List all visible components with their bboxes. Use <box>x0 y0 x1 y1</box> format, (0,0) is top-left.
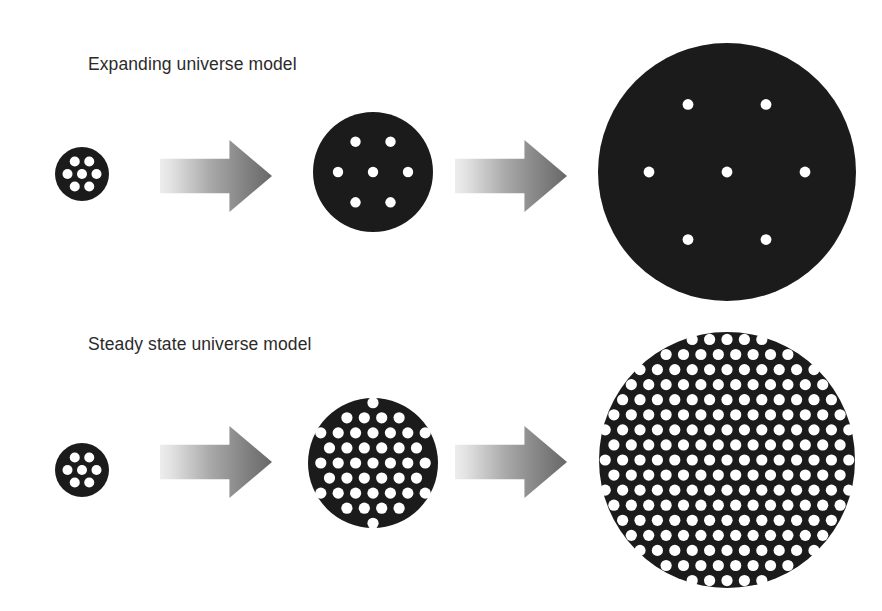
galaxy-dot <box>63 465 73 475</box>
galaxy-dot <box>420 427 431 438</box>
galaxy-dot <box>600 424 611 435</box>
galaxy-dot <box>721 334 732 345</box>
galaxy-dot <box>92 169 102 179</box>
galaxy-dot <box>835 469 846 480</box>
galaxy-dot <box>333 427 344 438</box>
galaxy-dot <box>324 472 335 483</box>
galaxy-dot <box>70 452 80 462</box>
galaxy-dot <box>678 409 689 420</box>
galaxy-dot <box>704 394 715 405</box>
galaxy-dot <box>385 488 396 499</box>
galaxy-dot <box>402 427 413 438</box>
galaxy-dot <box>721 394 732 405</box>
galaxy-dot <box>367 457 378 468</box>
galaxy-dot <box>411 442 422 453</box>
galaxy-dot <box>350 197 360 207</box>
galaxy-dot <box>817 469 828 480</box>
galaxy-dot <box>835 439 846 450</box>
galaxy-dot <box>617 424 628 435</box>
galaxy-dot <box>652 485 663 496</box>
galaxy-dot <box>92 465 102 475</box>
galaxy-dot <box>687 575 698 586</box>
universe-sphere-expanding-1 <box>55 147 109 201</box>
galaxy-dot <box>669 454 680 465</box>
galaxy-dot <box>678 379 689 390</box>
galaxy-dot <box>782 530 793 541</box>
galaxy-dot <box>722 167 733 178</box>
galaxy-dot <box>808 364 819 375</box>
galaxy-dot <box>739 575 750 586</box>
galaxy-dot <box>756 485 767 496</box>
galaxy-dot <box>626 500 637 511</box>
galaxy-dot <box>617 394 628 405</box>
galaxy-dot <box>721 364 732 375</box>
galaxy-dot <box>350 136 360 146</box>
galaxy-dot <box>704 454 715 465</box>
galaxy-dot <box>411 472 422 483</box>
galaxy-dot <box>791 515 802 526</box>
galaxy-dot <box>333 457 344 468</box>
label-steady-state-universe-model: Steady state universe model <box>88 334 312 355</box>
galaxy-dot <box>761 234 772 245</box>
galaxy-dot <box>70 182 80 192</box>
galaxy-dot <box>341 442 352 453</box>
galaxy-dot <box>84 182 94 192</box>
galaxy-dot <box>333 488 344 499</box>
galaxy-dot <box>808 545 819 556</box>
galaxy-dot <box>704 334 715 345</box>
galaxy-dot <box>634 545 645 556</box>
galaxy-dot <box>652 424 663 435</box>
galaxy-dot <box>748 500 759 511</box>
galaxy-dot <box>385 427 396 438</box>
galaxy-dot <box>643 439 654 450</box>
galaxy-dot <box>341 472 352 483</box>
galaxy-dot <box>608 439 619 450</box>
galaxy-dot <box>678 530 689 541</box>
galaxy-dot <box>643 409 654 420</box>
universe-sphere-expanding-3 <box>598 43 856 301</box>
galaxy-dot <box>84 478 94 488</box>
galaxy-dot <box>800 167 811 178</box>
galaxy-dot <box>739 334 750 345</box>
universe-sphere-steady-state-2 <box>308 397 438 529</box>
galaxy-dot <box>420 457 431 468</box>
galaxy-dot <box>721 575 732 586</box>
galaxy-dot <box>84 452 94 462</box>
galaxy-dot <box>367 488 378 499</box>
galaxy-dot <box>748 560 759 571</box>
galaxy-dot <box>808 515 819 526</box>
galaxy-dot <box>739 515 750 526</box>
galaxy-dot <box>765 379 776 390</box>
galaxy-dot <box>843 485 854 496</box>
galaxy-dot <box>721 424 732 435</box>
galaxy-dot <box>721 485 732 496</box>
galaxy-dot <box>765 349 776 360</box>
galaxy-dot <box>765 560 776 571</box>
galaxy-dot <box>791 545 802 556</box>
galaxy-dot <box>704 545 715 556</box>
galaxy-dot <box>704 424 715 435</box>
galaxy-dot <box>402 457 413 468</box>
galaxy-dot <box>315 427 326 438</box>
galaxy-dot <box>678 500 689 511</box>
galaxy-dot <box>713 469 724 480</box>
galaxy-dot <box>695 530 706 541</box>
galaxy-dot <box>394 442 405 453</box>
galaxy-dot <box>403 167 413 177</box>
galaxy-dot <box>687 454 698 465</box>
galaxy-dot <box>394 503 405 514</box>
galaxy-dot <box>687 394 698 405</box>
galaxy-dot <box>730 469 741 480</box>
galaxy-dot <box>774 394 785 405</box>
galaxy-dot <box>843 424 854 435</box>
galaxy-dot <box>661 500 672 511</box>
galaxy-dot <box>739 424 750 435</box>
galaxy-dot <box>800 379 811 390</box>
galaxy-dot <box>350 457 361 468</box>
galaxy-dot <box>420 488 431 499</box>
galaxy-dot <box>808 485 819 496</box>
galaxy-dot <box>385 457 396 468</box>
galaxy-dot <box>661 379 672 390</box>
galaxy-dot <box>730 560 741 571</box>
galaxy-dot <box>643 469 654 480</box>
